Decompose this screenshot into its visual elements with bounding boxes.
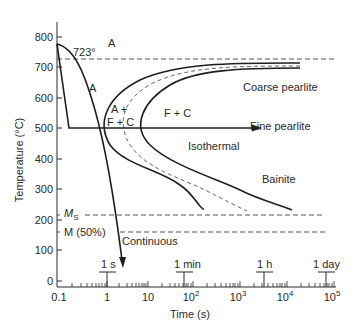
svg-text:100: 100 [35,244,53,256]
svg-text:105: 105 [324,289,341,303]
marker-1min: 1 min [174,258,201,270]
svg-text:800: 800 [35,31,53,43]
label-a-left: A [89,82,97,94]
label-coarse-pearlite: Coarse pearlite [243,81,318,93]
x-axis-title: Time (s) [170,308,210,320]
label-fc-right: F + C [164,107,191,119]
marker-1day: 1 day [313,258,340,270]
label-continuous: Continuous [122,235,178,247]
label-fc-mid: F + C [107,116,134,128]
ttt-diagram: 1 s 1 min 1 h 1 day 800 700 600 500 400 … [0,0,354,334]
svg-text:10: 10 [142,291,154,303]
time-markers [99,272,335,287]
marker-1h: 1 h [257,258,272,270]
x-minor-ticks [72,281,334,287]
label-m50: M (50%) [64,226,106,238]
svg-text:500: 500 [35,122,53,134]
svg-text:102: 102 [183,289,200,303]
svg-text:300: 300 [35,183,53,195]
label-a-plus: A + [111,103,127,115]
svg-text:200: 200 [35,214,53,226]
y-tick-labels: 800 700 600 500 400 300 200 100 0 [35,31,53,287]
svg-text:0.1: 0.1 [51,291,66,303]
label-723: 723° [73,46,96,58]
svg-text:700: 700 [35,61,53,73]
svg-text:600: 600 [35,92,53,104]
svg-text:1: 1 [104,291,110,303]
label-ms: MS [64,207,79,222]
axes [57,22,336,287]
marker-1s: 1 s [101,258,116,270]
continuous-arrowhead [119,257,126,268]
svg-text:104: 104 [277,289,294,303]
label-fine-pearlite: Fine pearlite [250,120,311,132]
label-a-top: A [108,37,116,49]
svg-text:0: 0 [47,275,53,287]
svg-text:400: 400 [35,153,53,165]
y-axis-title: Temperature (°C) [13,118,25,202]
x-tick-labels: 0.1 1 10 102 103 104 105 [51,289,341,303]
label-bainite: Bainite [262,173,296,185]
label-isothermal: Isothermal [188,140,239,152]
svg-text:103: 103 [230,289,247,303]
